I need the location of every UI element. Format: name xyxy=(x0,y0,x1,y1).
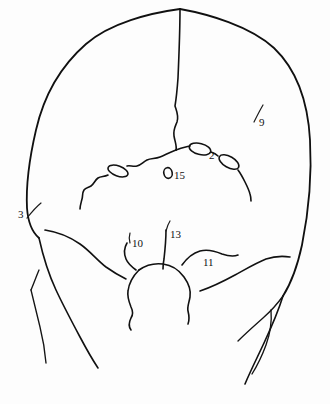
label-9: 9 xyxy=(259,117,265,128)
leader-3 xyxy=(27,203,41,218)
label-3: 3 xyxy=(18,209,24,220)
label-leaders xyxy=(0,0,330,404)
label-11: 11 xyxy=(203,257,214,268)
label-10: 10 xyxy=(132,238,143,249)
leader-10 xyxy=(129,233,130,243)
label-13: 13 xyxy=(170,229,181,240)
figure-container: 3 9 2 15 10 13 11 xyxy=(0,0,330,404)
label-15: 15 xyxy=(174,170,185,181)
label-2: 2 xyxy=(209,150,215,161)
